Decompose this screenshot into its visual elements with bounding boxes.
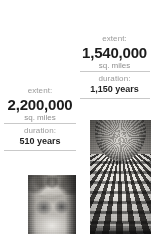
extent-label-left: extent: (0, 86, 80, 96)
extent-value-left: 2,200,000 (0, 96, 80, 113)
duration-value-right: 1,150 years (78, 84, 151, 95)
extent-units-right: sq. miles (78, 61, 151, 71)
divider-right-bottom (80, 98, 150, 99)
dome-photo (90, 120, 151, 234)
divider-right-top (80, 71, 150, 72)
duration-label-right: duration: (78, 74, 151, 84)
extent-label-right: extent: (78, 34, 151, 44)
sculpture-shadow-right (65, 175, 76, 234)
sculpture-shadow-left (28, 175, 36, 234)
extent-value-right: 1,540,000 (78, 44, 151, 61)
stat-column-left: extent: 2,200,000 sq. miles duration: 51… (0, 86, 80, 151)
extent-units-left: sq. miles (0, 113, 80, 123)
divider-left-bottom (4, 150, 76, 151)
dome-vignette (90, 120, 151, 234)
duration-value-left: 510 years (0, 136, 80, 147)
sculpture-photo (28, 175, 76, 234)
duration-label-left: duration: (0, 126, 80, 136)
infographic-root: extent: 1,540,000 sq. miles duration: 1,… (0, 0, 151, 234)
stat-column-right: extent: 1,540,000 sq. miles duration: 1,… (78, 34, 151, 99)
divider-left-top (4, 123, 76, 124)
